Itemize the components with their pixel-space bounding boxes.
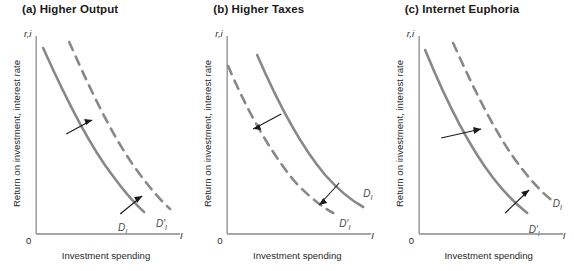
panel-c-plot [383, 0, 574, 271]
panel-c-curve-dashed [453, 43, 555, 203]
investment-demand-figure: (a) Higher Output Return on investment, … [0, 0, 574, 271]
panel-b: (b) Higher Taxes Return on investment, i… [191, 0, 382, 271]
panel-b-shift-arrow-lower [319, 183, 339, 205]
panel-c-shift-arrow-lower [505, 190, 529, 213]
panel-b-shift-arrow-upper [253, 114, 281, 130]
panel-c: (c) Internet Euphoria Return on investme… [383, 0, 574, 271]
panel-a-plot [0, 0, 191, 271]
panel-b-curve-dashed [228, 66, 333, 213]
panel-b-plot [191, 0, 382, 271]
panel-b-curve-solid [257, 55, 363, 207]
panel-a-curve-solid [43, 48, 144, 212]
panel-a: (a) Higher Output Return on investment, … [0, 0, 191, 271]
